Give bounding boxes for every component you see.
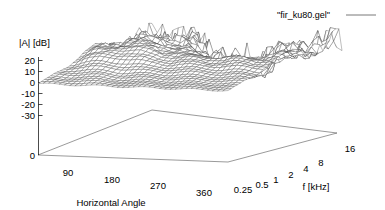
x-axis-title: Horizontal Angle bbox=[76, 197, 145, 208]
z-axis bbox=[39, 57, 43, 155]
x-tick-270: 270 bbox=[150, 180, 166, 191]
y-tick-4: 4 bbox=[303, 163, 308, 174]
y-tick-8: 8 bbox=[318, 157, 323, 168]
z-axis-title: |A| [dB] bbox=[19, 37, 50, 48]
z-tick-neg20: -20 bbox=[21, 99, 35, 110]
z-tick-neg10: -10 bbox=[21, 88, 35, 99]
z-axis-ticklabels: 20 10 0 -10 -20 -30 0 bbox=[21, 55, 35, 161]
y-tick-2: 2 bbox=[288, 169, 293, 180]
z-base-tick-0: 0 bbox=[30, 150, 35, 161]
y-axis-ticklabels: 0.25 0.5 1 2 4 8 16 bbox=[234, 143, 356, 195]
y-tick-0p25: 0.25 bbox=[234, 184, 253, 195]
y-tick-0p5: 0.5 bbox=[255, 179, 268, 190]
legend-entry-label: "fir_ku80.gel" bbox=[277, 10, 330, 20]
z-tick-10: 10 bbox=[24, 66, 35, 77]
y-tick-16: 16 bbox=[345, 143, 356, 154]
legend: "fir_ku80.gel" bbox=[277, 10, 376, 20]
z-tick-0: 0 bbox=[30, 77, 35, 88]
y-tick-1: 1 bbox=[273, 174, 278, 185]
x-tick-360: 360 bbox=[196, 187, 212, 198]
x-axis-ticklabels: 90 180 270 360 bbox=[63, 167, 212, 198]
surface-wireframe bbox=[38, 23, 342, 91]
z-tick-neg30: -30 bbox=[21, 110, 35, 121]
gnuplot-surface-plot: 20 10 0 -10 -20 -30 0 |A| [dB] 90 180 27… bbox=[0, 0, 385, 210]
y-axis-title: f [kHz] bbox=[303, 181, 330, 192]
x-tick-90: 90 bbox=[63, 167, 74, 178]
base-plane bbox=[38, 110, 337, 162]
x-tick-180: 180 bbox=[104, 174, 120, 185]
plot-canvas: 20 10 0 -10 -20 -30 0 |A| [dB] 90 180 27… bbox=[0, 0, 385, 210]
z-tick-20: 20 bbox=[24, 55, 35, 66]
